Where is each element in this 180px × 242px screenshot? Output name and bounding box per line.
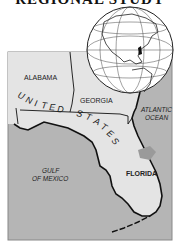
label-georgia: GEORGIA [80,97,113,104]
label-gulf-line1: GULF [42,167,60,174]
globe-inset [87,7,173,93]
label-atlantic-line2: OCEAN [145,114,168,121]
label-atlantic-line1: ATLANTIC [140,106,172,113]
label-alabama: ALABAMA [24,74,57,81]
label-gulf-line2: OF MEXICO [32,175,68,182]
label-florida: FLORIDA [126,170,157,177]
florida-map: ALABAMA GEORGIA U N I T E D S T A T E S … [0,0,180,242]
